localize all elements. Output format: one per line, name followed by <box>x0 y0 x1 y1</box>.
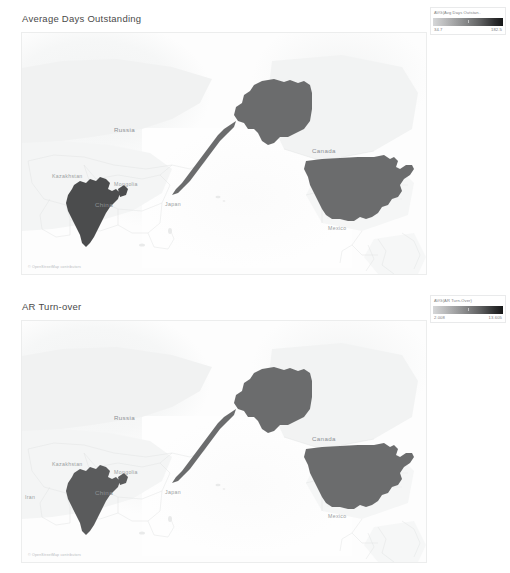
legend-gradient-ramp-2[interactable] <box>433 306 503 314</box>
legend-midpoint-tick-2 <box>468 308 469 311</box>
landmass-south-america <box>364 233 426 274</box>
legend-title: AVG(Avg Days Outstan.. <box>433 10 503 18</box>
legend-scale-values: 34.7 182.5 <box>433 26 503 32</box>
dashboard: Average Days Outstanding <box>0 0 510 573</box>
map-container[interactable]: Russia Kazakhstan Mongolia China Japan C… <box>21 32 427 275</box>
landmass-siberia <box>22 59 212 145</box>
legend-title-2: AVG(AR Turn-Over) <box>433 298 503 306</box>
map-vector-layer-2 <box>22 321 426 562</box>
landmass-south-america-2 <box>364 521 426 562</box>
map-container-2[interactable]: Russia Kazakhstan Mongolia China Japan I… <box>21 320 427 563</box>
page-title: Average Days Outstanding <box>22 13 141 24</box>
map-panel-average-days-outstanding: Average Days Outstanding <box>0 0 510 285</box>
legend-min-value: 34.7 <box>434 27 443 32</box>
page-title-2: AR Turn-over <box>22 301 82 312</box>
island-shapes <box>139 196 225 247</box>
legend-min-value-2: 2.008 <box>434 315 445 320</box>
legend-max-value-2: 13.605 <box>489 315 502 320</box>
map-attribution-2[interactable]: © OpenStreetMap contributors <box>28 553 81 557</box>
color-legend[interactable]: AVG(Avg Days Outstan.. 34.7 182.5 <box>430 7 506 35</box>
legend-max-value: 182.5 <box>491 27 502 32</box>
legend-scale-values-2: 2.008 13.605 <box>433 314 503 320</box>
legend-gradient-ramp[interactable] <box>433 18 503 26</box>
color-legend-2[interactable]: AVG(AR Turn-Over) 2.008 13.605 <box>430 295 506 323</box>
map-panel-ar-turn-over: AR Turn-over <box>0 288 510 573</box>
map-attribution[interactable]: © OpenStreetMap contributors <box>28 265 81 269</box>
island-shapes-2 <box>139 484 225 535</box>
legend-midpoint-tick <box>468 20 469 23</box>
map-vector-layer <box>22 33 426 274</box>
landmass-siberia-2 <box>22 347 212 433</box>
